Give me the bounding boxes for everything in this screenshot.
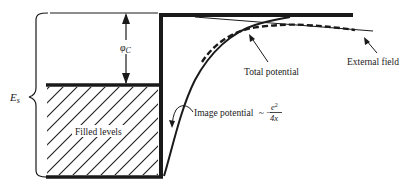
filled-levels-hatching — [0, 80, 266, 191]
svg-text:4x: 4x — [270, 113, 278, 123]
fermi-energy-label: Es — [9, 91, 20, 105]
potential-energy-diagram: Filled levels φC Es Total potential Exte… — [0, 0, 405, 191]
filled-levels-label: Filled levels — [75, 127, 122, 137]
work-function-arrow-head-bottom — [122, 73, 130, 84]
total-potential-label: Total potential — [244, 67, 299, 77]
image-potential-label: Image potential ~ − — [194, 108, 272, 118]
total-potential-pointer — [251, 37, 268, 62]
image-potential-curve — [164, 17, 290, 176]
image-potential-formula: e2 4x — [270, 102, 282, 123]
external-field-label: External field — [347, 57, 399, 67]
work-function-arrow-head-top — [122, 13, 130, 24]
svg-text:e2: e2 — [271, 102, 278, 112]
fermi-energy-brace — [29, 13, 48, 177]
image-potential-pointer-head — [169, 120, 175, 128]
